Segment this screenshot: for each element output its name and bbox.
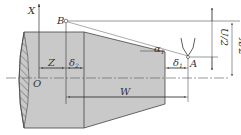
diagram-canvas: X O B A Z δ2 δ1 α1 W U/2 X/2: [0, 0, 241, 135]
tool-icon: [181, 38, 218, 102]
point-a-label: A: [189, 58, 197, 69]
alpha1-label: α1: [154, 43, 165, 55]
z-label: Z: [47, 57, 56, 68]
point-b-label: B: [56, 15, 64, 26]
x-half-label: X/2: [237, 37, 241, 55]
u-half-label: U/2: [219, 28, 230, 46]
turning-diagram: X O B A Z δ2 δ1 α1 W U/2 X/2: [0, 0, 241, 135]
delta1-label: δ1: [173, 57, 183, 69]
x-axis-label: X: [27, 5, 36, 16]
origin-label: O: [33, 78, 41, 89]
w-label: W: [120, 86, 131, 97]
point-b-marker: [64, 19, 68, 23]
